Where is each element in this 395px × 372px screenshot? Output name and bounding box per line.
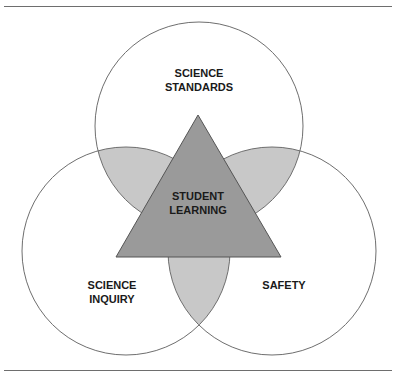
label-student-learning-line1: STUDENT	[172, 190, 224, 202]
label-science-standards-line1: SCIENCE	[175, 67, 224, 79]
label-science-standards-line2: STANDARDS	[165, 81, 233, 93]
label-safety: SAFETY	[262, 279, 306, 291]
bottom-rule	[4, 370, 392, 371]
venn-diagram: SCIENCE STANDARDS STUDENT LEARNING SCIEN…	[0, 0, 395, 372]
label-student-learning-line2: LEARNING	[169, 204, 226, 216]
label-science-inquiry-line2: INQUIRY	[89, 293, 135, 305]
label-science-inquiry-line1: SCIENCE	[88, 279, 137, 291]
